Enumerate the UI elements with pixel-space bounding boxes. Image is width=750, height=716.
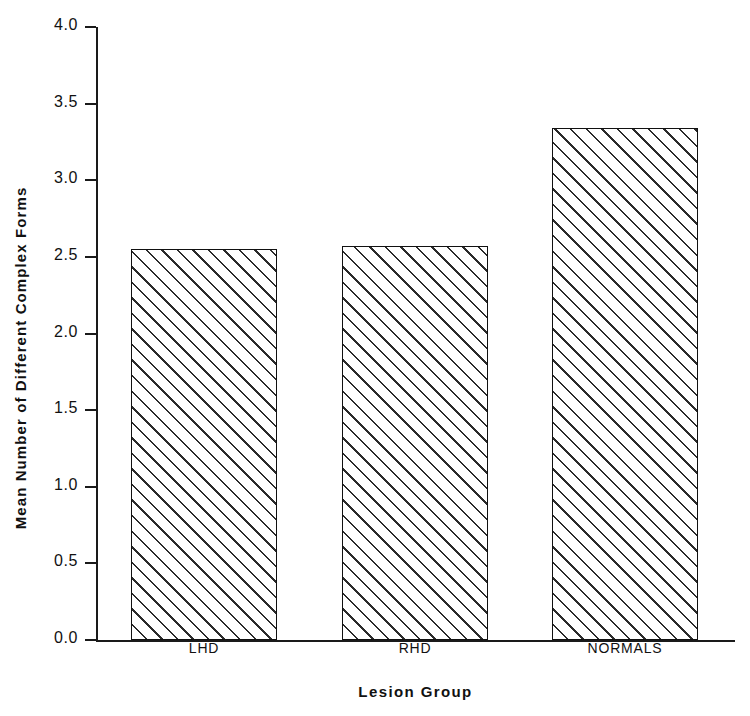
y-tick-mark: 2.0: [85, 333, 96, 335]
bar-rhd: [342, 246, 488, 640]
y-tick-mark: 3.5: [85, 103, 96, 105]
y-tick-label: 2.0: [54, 323, 78, 341]
y-tick-label: 2.5: [54, 246, 78, 264]
x-axis-title: Lesion Group: [96, 683, 735, 700]
bar-chart-figure: Mean Number of Different Complex Forms 0…: [0, 0, 750, 716]
y-tick-mark: 3.0: [85, 179, 96, 181]
x-category-label-normals: NORMALS: [588, 640, 663, 656]
y-tick-mark: 0.5: [85, 562, 96, 564]
x-category-label-lhd: LHD: [189, 640, 219, 656]
plot-area: 0.00.51.01.52.02.53.03.54.0: [96, 27, 735, 640]
y-tick-label: 0.5: [54, 552, 78, 570]
y-tick-mark: 0.0: [85, 639, 96, 641]
y-tick-mark: 4.0: [85, 26, 96, 28]
y-tick-label: 1.0: [54, 476, 78, 494]
bar-normals: [552, 128, 698, 640]
y-tick-mark: 2.5: [85, 256, 96, 258]
bar-lhd: [131, 249, 277, 640]
y-tick-label: 1.5: [54, 399, 78, 417]
bars-layer: [96, 27, 735, 640]
y-tick-label: 4.0: [54, 16, 78, 34]
y-tick-label: 3.0: [54, 169, 78, 187]
y-tick-label: 0.0: [54, 629, 78, 647]
y-tick-mark: 1.5: [85, 409, 96, 411]
y-tick-label: 3.5: [54, 93, 78, 111]
y-axis-title: Mean Number of Different Complex Forms: [0, 0, 40, 716]
x-category-label-rhd: RHD: [399, 640, 432, 656]
y-tick-mark: 1.0: [85, 486, 96, 488]
